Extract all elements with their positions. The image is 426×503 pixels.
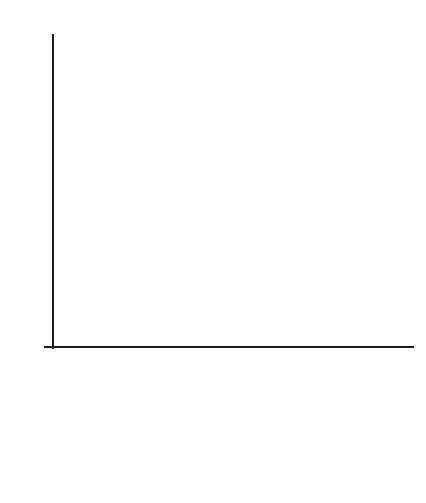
y-axis-line [52, 34, 54, 349]
bar-chart [0, 0, 426, 503]
plot-area [53, 38, 412, 347]
x-axis-line [44, 346, 414, 348]
chart-title [0, 0, 426, 6]
